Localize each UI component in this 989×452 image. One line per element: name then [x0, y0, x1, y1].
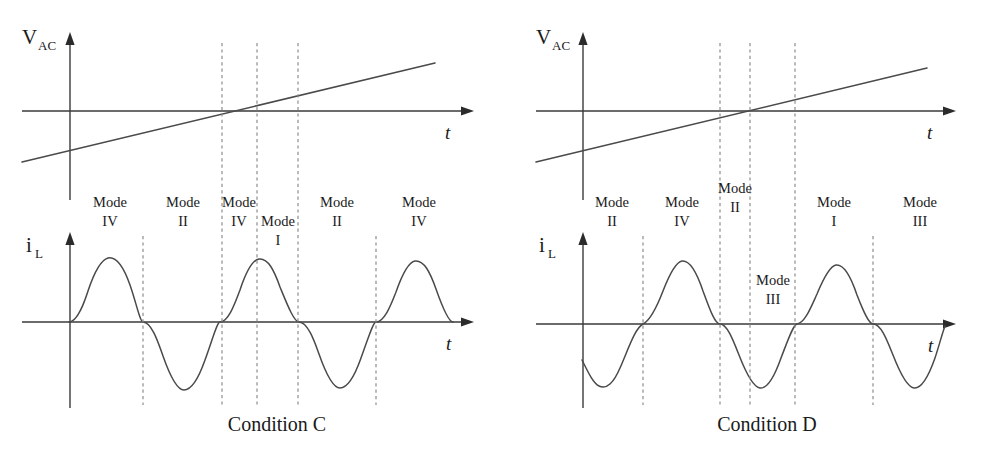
- panel-condition-c: V AC t i L t: [22, 25, 474, 435]
- mode-label-d-3: Mode III: [756, 272, 790, 307]
- il-y-axis-arrow-d: [578, 232, 587, 245]
- vac-y-axis-arrow-d: [578, 32, 587, 45]
- svg-text:Mode: Mode: [166, 194, 200, 210]
- svg-text:Mode: Mode: [402, 194, 436, 210]
- svg-text:II: II: [730, 199, 740, 215]
- svg-text:IV: IV: [231, 213, 247, 229]
- vac-plot-d: V AC t: [536, 25, 956, 200]
- vac-y-axis-arrow-c: [65, 32, 74, 45]
- il-x-axis-label-d: t: [928, 335, 934, 356]
- vac-x-axis-arrow-d: [943, 106, 956, 115]
- vac-axis-label-main-c: V: [22, 25, 37, 49]
- mode-labels-c: Mode IV Mode II Mode IV Mode I Mode II M…: [93, 194, 436, 248]
- mode-label-c-4: Mode II: [320, 194, 354, 229]
- vac-axis-label-sub-d: AC: [552, 38, 570, 53]
- svg-text:II: II: [332, 213, 342, 229]
- vac-x-axis-label-d: t: [927, 122, 933, 143]
- mode-label-c-2: Mode IV: [222, 194, 256, 229]
- mode-label-c-5: Mode IV: [402, 194, 436, 229]
- svg-text:Mode: Mode: [756, 272, 790, 288]
- panel-condition-d: V AC t i L t Mode II: [536, 25, 956, 435]
- vac-ramp-c: [22, 63, 435, 162]
- mode-label-d-2: Mode II: [718, 180, 752, 215]
- svg-text:Mode: Mode: [93, 194, 127, 210]
- caption-condition-c: Condition C: [228, 413, 326, 435]
- mode-timing-diagram: V AC t i L t: [0, 0, 989, 452]
- vac-x-axis-arrow-c: [461, 106, 474, 115]
- mode-label-c-1: Mode II: [166, 194, 200, 229]
- svg-text:IV: IV: [102, 213, 118, 229]
- svg-text:II: II: [607, 213, 617, 229]
- il-x-axis-label-c: t: [446, 333, 452, 354]
- svg-text:I: I: [276, 232, 281, 248]
- svg-text:Mode: Mode: [595, 194, 629, 210]
- mode-label-d-5: Mode III: [903, 194, 937, 229]
- il-plot-c: i L t: [22, 232, 474, 408]
- il-plot-d: i L t: [536, 232, 956, 408]
- svg-text:Mode: Mode: [718, 180, 752, 196]
- svg-text:Mode: Mode: [261, 213, 295, 229]
- mode-label-d-1: Mode IV: [665, 194, 699, 229]
- svg-text:III: III: [766, 291, 781, 307]
- il-axis-label-main-c: i: [26, 233, 32, 257]
- svg-text:IV: IV: [674, 213, 690, 229]
- mode-labels-d: Mode II Mode IV Mode II Mode III Mode I …: [595, 180, 937, 307]
- mode-label-d-0: Mode II: [595, 194, 629, 229]
- svg-text:II: II: [178, 213, 188, 229]
- il-y-axis-arrow-c: [65, 232, 74, 245]
- mode-label-d-4: Mode I: [817, 194, 851, 229]
- vac-axis-label-main-d: V: [536, 25, 551, 49]
- vac-ramp-d: [536, 68, 927, 162]
- vac-plot-c: V AC t: [22, 25, 474, 200]
- il-waveform-c: [69, 258, 453, 390]
- vac-x-axis-label-c: t: [445, 122, 451, 143]
- svg-text:I: I: [832, 213, 837, 229]
- mode-label-c-0: Mode IV: [93, 194, 127, 229]
- svg-text:III: III: [913, 213, 928, 229]
- svg-text:Mode: Mode: [222, 194, 256, 210]
- mode-label-c-3: Mode I: [261, 213, 295, 248]
- svg-text:Mode: Mode: [320, 194, 354, 210]
- il-x-axis-arrow-c: [461, 317, 474, 326]
- il-axis-label-sub-c: L: [35, 246, 43, 261]
- il-axis-label-sub-d: L: [548, 246, 556, 261]
- svg-text:Mode: Mode: [665, 194, 699, 210]
- svg-text:Mode: Mode: [817, 194, 851, 210]
- svg-text:IV: IV: [411, 213, 427, 229]
- il-axis-label-main-d: i: [539, 233, 545, 257]
- caption-condition-d: Condition D: [717, 413, 816, 435]
- vac-axis-label-sub-c: AC: [38, 38, 56, 53]
- svg-text:Mode: Mode: [903, 194, 937, 210]
